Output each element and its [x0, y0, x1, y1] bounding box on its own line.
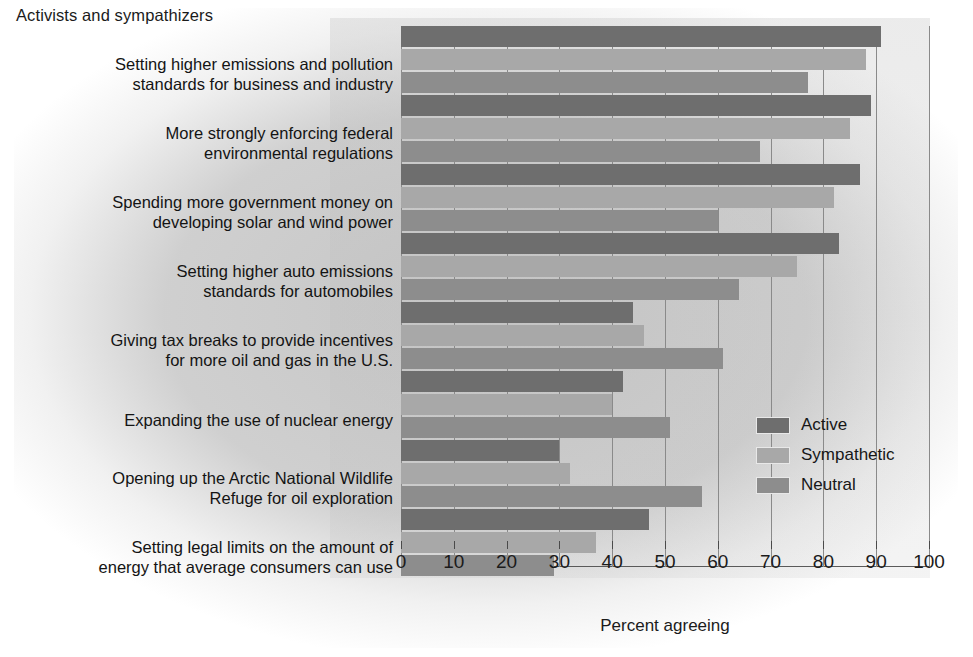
bar-active	[401, 164, 860, 185]
bar-active	[401, 95, 871, 116]
category-label: Spending more government money ondevelop…	[8, 192, 393, 232]
gridline	[929, 26, 930, 567]
category-label-line: Setting higher auto emissions	[8, 261, 393, 281]
bar-neutral	[401, 486, 702, 507]
category-label: Setting higher auto emissionsstandards f…	[8, 261, 393, 301]
bar-neutral	[401, 141, 760, 162]
x-tick-mark	[401, 541, 402, 549]
category-label-line: environmental regulations	[8, 143, 393, 163]
x-tick-label: 10	[443, 551, 464, 573]
bar-neutral	[401, 210, 718, 231]
bar-sympathetic	[401, 49, 866, 70]
category-label-line: standards for business and industry	[8, 74, 393, 94]
category-label: Expanding the use of nuclear energy	[8, 410, 393, 430]
legend-item-neutral: Neutral	[756, 470, 895, 500]
bar-sympathetic	[401, 118, 850, 139]
bar-neutral	[401, 348, 723, 369]
category-label-line: Spending more government money on	[8, 192, 393, 212]
category-label: Setting higher emissions and pollutionst…	[8, 54, 393, 94]
bar-active	[401, 440, 559, 461]
x-tick-label: 60	[707, 551, 728, 573]
chart-legend: Active Sympathetic Neutral	[756, 410, 895, 500]
x-tick-mark	[771, 541, 772, 549]
bar-active	[401, 233, 839, 254]
x-tick-mark	[612, 541, 613, 549]
category-label: More strongly enforcing federalenvironme…	[8, 123, 393, 163]
legend-swatch-sympathetic-icon	[756, 447, 790, 464]
x-tick-label: 50	[654, 551, 675, 573]
legend-swatch-neutral-icon	[756, 477, 790, 494]
chart-caption: Activists and sympathizers	[16, 6, 213, 25]
x-tick-mark	[876, 541, 877, 549]
bar-neutral	[401, 417, 670, 438]
bar-sympathetic	[401, 256, 797, 277]
category-label: Opening up the Arctic National WildlifeR…	[8, 468, 393, 508]
x-tick-mark	[929, 541, 930, 549]
category-label-line: energy that average consumers can use	[8, 557, 393, 577]
bar-sympathetic	[401, 463, 570, 484]
legend-label-sympathetic: Sympathetic	[801, 445, 895, 465]
x-tick-mark	[665, 541, 666, 549]
bar-sympathetic	[401, 187, 834, 208]
bar-sympathetic	[401, 394, 612, 415]
category-label-line: Expanding the use of nuclear energy	[8, 410, 393, 430]
category-label-line: Refuge for oil exploration	[8, 488, 393, 508]
legend-item-sympathetic: Sympathetic	[756, 440, 895, 470]
category-label: Giving tax breaks to provide incentivesf…	[8, 330, 393, 370]
bar-sympathetic	[401, 532, 596, 553]
x-tick-label: 20	[496, 551, 517, 573]
bar-sympathetic	[401, 325, 644, 346]
x-tick-mark	[718, 541, 719, 549]
x-axis-title: Percent agreeing	[401, 616, 929, 636]
category-label-line: Opening up the Arctic National Wildlife	[8, 468, 393, 488]
x-tick-label: 70	[760, 551, 781, 573]
category-label-line: developing solar and wind power	[8, 212, 393, 232]
x-tick-mark	[507, 541, 508, 549]
x-tick-mark	[454, 541, 455, 549]
legend-label-neutral: Neutral	[801, 475, 856, 495]
legend-item-active: Active	[756, 410, 895, 440]
category-label-line: standards for automobiles	[8, 281, 393, 301]
category-label-line: Setting legal limits on the amount of	[8, 537, 393, 557]
x-tick-label: 30	[549, 551, 570, 573]
bar-neutral	[401, 279, 739, 300]
category-label-line: More strongly enforcing federal	[8, 123, 393, 143]
bar-active	[401, 509, 649, 530]
bar-active	[401, 26, 881, 47]
category-label: Setting legal limits on the amount ofene…	[8, 537, 393, 577]
category-label-line: Setting higher emissions and pollution	[8, 54, 393, 74]
x-tick-label: 0	[396, 551, 407, 573]
legend-swatch-active-icon	[756, 417, 790, 434]
x-tick-mark	[559, 541, 560, 549]
category-label-line: for more oil and gas in the U.S.	[8, 350, 393, 370]
bar-neutral	[401, 72, 808, 93]
chart-figure: Activists and sympathizers 0102030405060…	[0, 0, 973, 657]
x-tick-mark	[823, 541, 824, 549]
bar-neutral	[401, 555, 554, 576]
bar-active	[401, 302, 633, 323]
legend-label-active: Active	[801, 415, 847, 435]
x-tick-label: 90	[866, 551, 887, 573]
x-tick-label: 40	[602, 551, 623, 573]
x-tick-label: 80	[813, 551, 834, 573]
bar-active	[401, 371, 623, 392]
x-tick-label: 100	[913, 551, 945, 573]
category-label-line: Giving tax breaks to provide incentives	[8, 330, 393, 350]
